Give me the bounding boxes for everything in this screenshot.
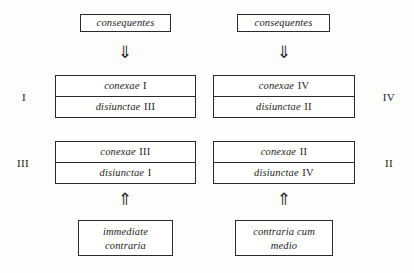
double-down-arrow-left: ⇓ [115,44,135,61]
disiunctae-numeral-q1: III [144,101,155,112]
term-line-2: medio [271,239,297,253]
quadrant-row-disiunctae: disiunctaeI [56,163,195,184]
diagram-canvas: consequentes consequentes ⇓ ⇓ conexaeI d… [0,0,414,273]
disiunctae-numeral-q2: IV [302,167,314,178]
term-box-immediate-contraria: immediate contraria [78,220,173,256]
quadrant-row-conexae: conexaeII [214,142,354,163]
consequentes-label-left: consequentes [97,17,155,30]
consequentes-label-right: consequentes [255,17,313,30]
disiunctae-numeral-q4: II [304,101,312,112]
disiunctae-label-q3: disiunctae [100,167,145,178]
disiunctae-label-q1: disiunctae [96,101,141,112]
conexae-numeral-q3: III [139,146,150,157]
term-box-contraria-cum-medio: contraria cum medio [235,220,333,256]
quadrant-row-disiunctae: disiunctaeII [214,97,354,118]
quadrant-row-conexae: conexaeI [56,76,195,97]
disiunctae-label-q4: disiunctae [256,101,301,112]
quadrant-row-disiunctae: disiunctaeIII [56,97,195,118]
conexae-label-q4: conexae [259,80,294,91]
conexae-label-q3: conexae [100,146,135,157]
quadrant-row-conexae: conexaeIV [214,76,354,97]
quadrant-outer-label-III: III [8,157,38,169]
double-up-arrow-left: ⇑ [115,191,135,208]
term-line-1: immediate [103,225,148,239]
quadrant-box-bottom-left: conexaeIII disiunctaeI [55,141,196,184]
term-line-1: contraria cum [253,225,315,239]
conexae-label-q2: conexae [261,146,296,157]
conexae-numeral-q2: II [300,146,308,157]
quadrant-outer-label-II: II [378,157,400,169]
quadrant-outer-label-IV: IV [376,91,402,103]
quadrant-box-top-right: conexaeIV disiunctaeII [213,75,355,118]
conexae-label-q1: conexae [104,80,139,91]
quadrant-outer-label-I: I [12,91,36,103]
conexae-numeral-q1: I [143,80,147,91]
disiunctae-label-q2: disiunctae [254,167,299,178]
double-up-arrow-right: ⇑ [274,191,294,208]
quadrant-row-disiunctae: disiunctaeIV [214,163,354,184]
consequentes-box-left: consequentes [80,14,171,32]
disiunctae-numeral-q3: I [148,167,152,178]
double-down-arrow-right: ⇓ [274,44,294,61]
consequentes-box-right: consequentes [237,14,330,32]
quadrant-box-top-left: conexaeI disiunctaeIII [55,75,196,118]
term-line-2: contraria [105,239,146,253]
quadrant-box-bottom-right: conexaeII disiunctaeIV [213,141,355,184]
conexae-numeral-q4: IV [298,80,310,91]
quadrant-row-conexae: conexaeIII [56,142,195,163]
